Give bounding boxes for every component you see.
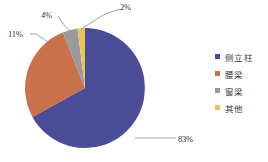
leader-line-4	[58, 16, 70, 32]
pie-chart-figure: 83% 11% 4% 2% 侧立柱 腰梁 窗梁 其他	[0, 0, 268, 162]
legend-swatch-icon	[215, 88, 220, 93]
legend-item-label: 窗梁	[225, 85, 244, 97]
legend-swatch-icon	[215, 71, 220, 76]
data-label-window-beam: 4%	[41, 10, 52, 20]
leader-line-2	[81, 9, 120, 29]
legend-swatch-icon	[215, 54, 220, 59]
chart-legend: 侧立柱 腰梁 窗梁 其他	[215, 48, 268, 116]
legend-swatch-icon	[215, 105, 220, 110]
legend-item-waist-beam[interactable]: 腰梁	[215, 65, 268, 82]
data-label-side-column: 83%	[178, 134, 193, 144]
legend-item-window-beam[interactable]: 窗梁	[215, 82, 268, 99]
data-label-other: 2%	[120, 2, 131, 12]
legend-item-label: 其他	[225, 102, 244, 114]
leader-line-11	[30, 34, 48, 42]
legend-item-label: 侧立柱	[225, 51, 253, 63]
data-label-waist-beam: 11%	[8, 29, 23, 39]
legend-item-other[interactable]: 其他	[215, 99, 268, 116]
legend-item-label: 腰梁	[225, 68, 244, 80]
legend-item-side-column[interactable]: 侧立柱	[215, 48, 268, 65]
